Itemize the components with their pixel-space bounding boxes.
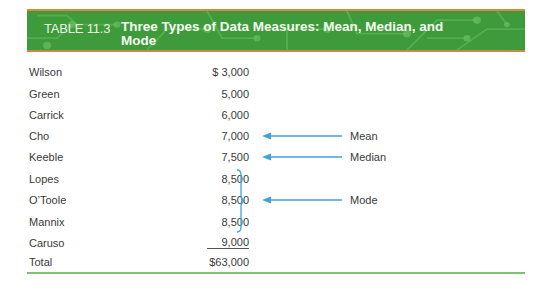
row-value: 6,000 bbox=[221, 109, 249, 121]
row-value: 9,000 bbox=[207, 237, 249, 249]
arrow-left-icon bbox=[262, 153, 342, 161]
table-row: Green 5,000 bbox=[29, 88, 249, 108]
mode-label: Mode bbox=[350, 194, 378, 206]
row-name: O’Toole bbox=[29, 194, 66, 206]
row-value: 5,000 bbox=[221, 88, 249, 100]
row-name: Carrick bbox=[29, 109, 64, 121]
row-name: Green bbox=[29, 88, 60, 100]
table-row: Keeble 7,500 bbox=[29, 151, 249, 171]
row-name: Lopes bbox=[29, 173, 59, 185]
table-row: Lopes 8,500 bbox=[29, 173, 249, 193]
table-row: Carrick 6,000 bbox=[29, 109, 249, 129]
table-row: Mannix 8,500 bbox=[29, 216, 249, 236]
table-row: O’Toole 8,500 bbox=[29, 194, 249, 214]
row-name: Mannix bbox=[29, 216, 64, 228]
table-bottom-rule bbox=[27, 272, 525, 274]
total-value: $63,000 bbox=[209, 256, 249, 268]
table-header-banner: TABLE 11.3 Three Types of Data Measures:… bbox=[27, 9, 525, 52]
total-label: Total bbox=[29, 256, 52, 268]
table-number: TABLE 11.3 bbox=[44, 21, 110, 36]
table-row: Caruso 9,000 bbox=[29, 237, 249, 257]
row-value: 7,500 bbox=[221, 151, 249, 163]
arrow-left-icon bbox=[262, 132, 342, 140]
row-name: Wilson bbox=[29, 66, 62, 78]
table-row: Wilson $ 3,000 bbox=[29, 66, 249, 86]
row-value: $ 3,000 bbox=[212, 66, 249, 78]
row-name: Cho bbox=[29, 130, 49, 142]
median-label: Median bbox=[350, 151, 386, 163]
arrow-left-icon bbox=[262, 196, 342, 204]
row-value: 7,000 bbox=[221, 130, 249, 142]
row-name: Caruso bbox=[29, 237, 64, 249]
row-name: Keeble bbox=[29, 151, 63, 163]
table-row: Cho 7,000 bbox=[29, 130, 249, 150]
mean-label: Mean bbox=[350, 130, 378, 142]
right-brace-icon bbox=[235, 169, 247, 233]
table-title: Three Types of Data Measures: Mean, Medi… bbox=[121, 20, 481, 48]
